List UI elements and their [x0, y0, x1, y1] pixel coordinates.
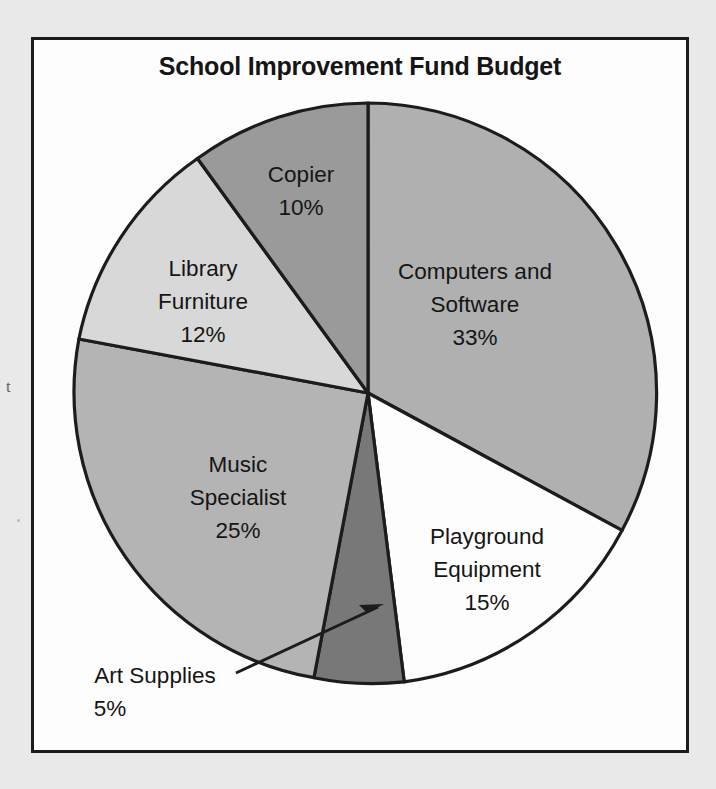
label-music-line2: Specialist — [190, 485, 287, 510]
label-playground-line2: Equipment — [433, 557, 541, 582]
label-library-line1: Library — [169, 256, 239, 281]
figure-frame: School Improvement Fund Budget Computers… — [31, 37, 689, 753]
label-music-pct: 25% — [215, 518, 260, 543]
label-playground-pct: 15% — [464, 590, 509, 615]
label-art-supplies-line1: Art Supplies — [94, 663, 215, 688]
label-library-line2: Furniture — [158, 289, 248, 314]
label-computers-pct: 33% — [452, 325, 497, 350]
label-computers-line1: Computers and — [398, 259, 552, 284]
label-music-line1: Music — [209, 452, 268, 477]
pie-chart: Computers and Software 33% Playground Eq… — [0, 0, 716, 789]
label-computers-line2: Software — [431, 292, 520, 317]
label-copier-line1: Copier — [268, 162, 335, 187]
label-library-pct: 12% — [180, 322, 225, 347]
label-copier-pct: 10% — [278, 195, 323, 220]
label-playground-line1: Playground — [430, 524, 544, 549]
label-art-supplies-pct: 5% — [94, 696, 127, 721]
